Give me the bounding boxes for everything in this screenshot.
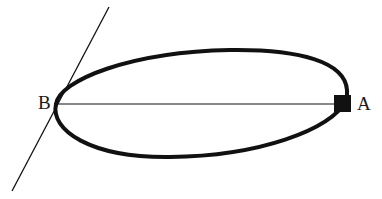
square-marker-a xyxy=(334,95,351,112)
label-b: B xyxy=(38,92,51,113)
diagram-canvas: B A xyxy=(0,0,382,199)
label-a: A xyxy=(357,93,371,114)
tangent-line xyxy=(12,7,109,191)
